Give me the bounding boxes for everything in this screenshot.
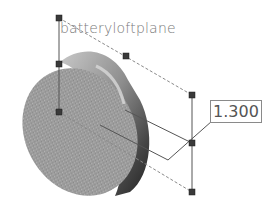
graphics-viewport[interactable]: batteryloftplane 1.300: [0, 0, 277, 211]
dimension-value-box[interactable]: 1.300: [210, 100, 262, 123]
cylinder-body[interactable]: [0, 48, 159, 211]
handle-icon[interactable]: [123, 53, 129, 59]
handle-icon[interactable]: [189, 140, 195, 146]
handle-icon[interactable]: [56, 109, 62, 115]
handle-icon[interactable]: [56, 61, 62, 67]
handle-icon[interactable]: [189, 92, 195, 98]
handle-icon[interactable]: [189, 189, 195, 195]
plane-name-label[interactable]: batteryloftplane: [60, 20, 176, 36]
